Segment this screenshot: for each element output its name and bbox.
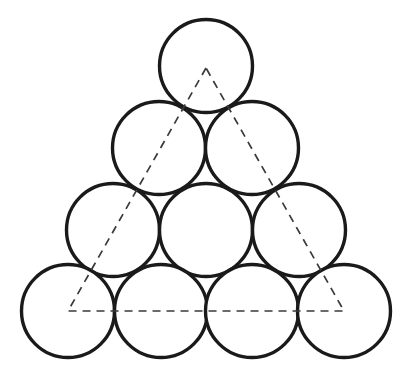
circle-packing-diagram (0, 0, 407, 386)
figure-canvas (0, 0, 407, 386)
circle-r1-c1 (160, 20, 253, 113)
circle-r3-c2 (160, 184, 253, 277)
circle-r3-c3 (253, 184, 346, 277)
circle-r2-c1 (113, 102, 206, 195)
circle-r3-c1 (67, 184, 160, 277)
